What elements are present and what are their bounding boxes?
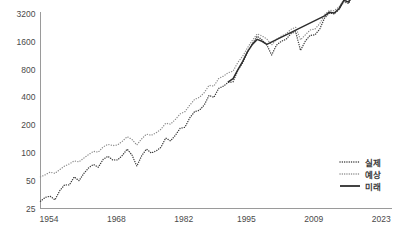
- x-tick-label: 1982: [174, 214, 193, 224]
- chart-legend: 실제예상미래: [340, 158, 381, 192]
- legend-label: 미래: [365, 182, 381, 192]
- y-tick-label: 50: [26, 176, 36, 186]
- x-tick-label: 1954: [40, 214, 59, 224]
- axes: [41, 12, 393, 209]
- x-tick-label: 1995: [237, 214, 256, 224]
- x-axis-tick-labels: 195419681982199520092023: [40, 214, 391, 224]
- chart-svg: 320016008004002001005025 195419681982199…: [0, 0, 398, 240]
- series-line-실제: [41, 0, 373, 201]
- x-tick-label: 2009: [304, 214, 323, 224]
- legend-label: 예상: [365, 170, 381, 180]
- plot-series-group: [41, 0, 388, 201]
- y-tick-label: 400: [21, 92, 35, 102]
- x-tick-label: 1968: [107, 214, 126, 224]
- y-tick-label: 25: [26, 204, 36, 214]
- series-line-예상: [41, 0, 373, 177]
- chart-container: 320016008004002001005025 195419681982199…: [0, 0, 398, 240]
- y-tick-label: 1600: [17, 37, 36, 47]
- legend-label: 실제: [365, 158, 381, 168]
- y-tick-label: 200: [21, 120, 35, 130]
- y-tick-label: 800: [21, 65, 35, 75]
- y-tick-label: 3200: [17, 9, 36, 19]
- y-axis-tick-labels: 320016008004002001005025: [17, 9, 36, 214]
- x-tick-label: 2023: [372, 214, 391, 224]
- y-tick-label: 100: [21, 148, 35, 158]
